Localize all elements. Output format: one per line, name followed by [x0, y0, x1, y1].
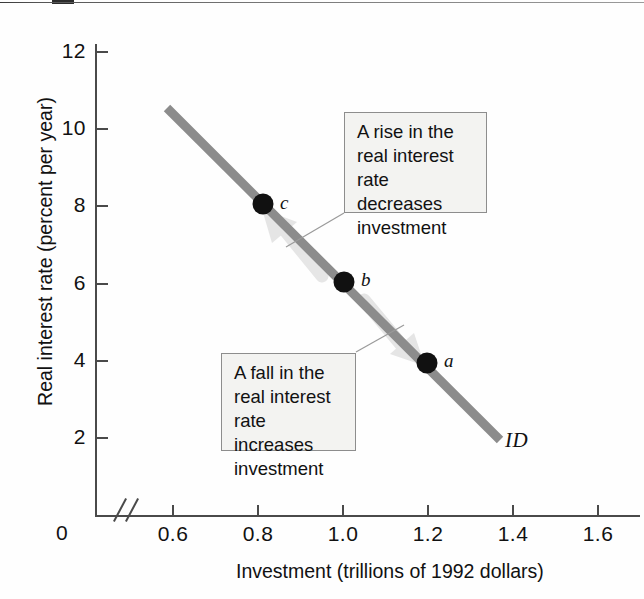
- x-tick-1.0: [342, 505, 344, 516]
- y-tick-4: [97, 360, 108, 362]
- x-tick-label-1.6: 1.6: [563, 522, 633, 546]
- axis-break-slash-1: [113, 498, 127, 522]
- origin-label: 0: [56, 521, 68, 545]
- x-tick-1.4: [512, 505, 514, 516]
- y-tick-12: [97, 51, 108, 53]
- x-tick-1.2: [427, 505, 429, 516]
- y-tick-10: [97, 128, 108, 130]
- x-tick-label-1.4: 1.4: [478, 522, 548, 546]
- data-point-c: [253, 194, 274, 215]
- arrow-down-b-to-a: [364, 300, 425, 366]
- annotation-rise-line-3: rate decreases: [357, 168, 476, 216]
- annotation-rise-line-2: real interest: [357, 144, 476, 168]
- y-axis-line: [95, 44, 97, 517]
- annotation-rise-line-4: investment: [357, 216, 476, 240]
- annotation-fall-line-3: rate increases: [234, 409, 345, 457]
- leader-line-fall: [356, 325, 404, 352]
- y-tick-2: [97, 437, 108, 439]
- annotation-rise-line-1: A rise in the: [357, 120, 476, 144]
- x-tick-1.6: [597, 505, 599, 516]
- annotation-fall-line-1: A fall in the: [234, 361, 345, 385]
- y-tick-6: [97, 283, 108, 285]
- x-axis-title: Investment (trillions of 1992 dollars): [236, 560, 544, 583]
- leader-line-rise: [286, 213, 344, 247]
- x-tick-label-1.0: 1.0: [308, 522, 378, 546]
- x-tick-label-0.6: 0.6: [138, 522, 208, 546]
- investment-demand-figure: 12 10 8 6 4 2 0.6 0.8 1.0 1.2 1.4 1.6 0 …: [0, 0, 644, 599]
- curve-label-id: ID: [505, 428, 528, 453]
- arrow-up-b-to-c: [262, 209, 322, 276]
- data-point-label-a: a: [444, 350, 454, 372]
- annotation-fall-line-4: investment: [234, 457, 345, 481]
- y-tick-8: [97, 205, 108, 207]
- y-axis-title: Real interest rate (percent per year): [34, 57, 57, 447]
- annotation-box-rise: A rise in the real interest rate decreas…: [344, 112, 487, 213]
- data-point-b: [334, 272, 355, 293]
- data-point-a: [417, 353, 438, 374]
- x-tick-0.6: [172, 505, 174, 516]
- annotation-box-fall: A fall in the real interest rate increas…: [221, 353, 356, 451]
- annotation-fall-line-2: real interest: [234, 385, 345, 409]
- x-axis-line: [95, 515, 640, 517]
- x-tick-label-0.8: 0.8: [223, 522, 293, 546]
- data-point-label-c: c: [280, 192, 288, 214]
- data-point-label-b: b: [361, 269, 371, 291]
- x-tick-0.8: [257, 505, 259, 516]
- x-tick-label-1.2: 1.2: [393, 522, 463, 546]
- axis-break-slash-2: [125, 498, 139, 522]
- scan-artifact-edge: [0, 2, 644, 3]
